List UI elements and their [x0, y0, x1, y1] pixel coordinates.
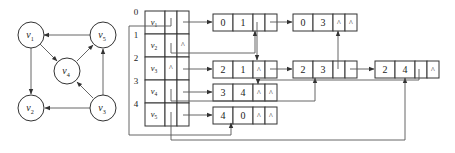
tail-vex: 2: [383, 64, 388, 75]
arc-v4-v5: [77, 45, 93, 61]
row-index: 4: [134, 99, 139, 109]
null-marker: ^: [257, 112, 261, 121]
tail-vex: 4: [221, 110, 226, 121]
vertex-v4: v4: [54, 58, 80, 84]
firstout-cell: [177, 80, 189, 103]
graph-vertices: v1v5v4v2v3: [18, 22, 116, 121]
orthogonal-list-diagram: v1v5v4v2v3 0v11v2^2v3^3v44v5 0103^^21^23…: [0, 0, 455, 153]
null-marker: ^: [349, 19, 353, 28]
firstout-cell: [177, 57, 189, 80]
row-index: 3: [134, 76, 139, 86]
head-vex: 3: [321, 64, 326, 75]
null-marker: ^: [181, 41, 185, 50]
null-marker: ^: [431, 66, 435, 75]
tail-vex: 0: [221, 17, 226, 28]
vertex-v2: v2: [18, 95, 44, 121]
vertex-v3: v3: [90, 95, 116, 121]
head-vex: 3: [321, 17, 326, 28]
arc-node-2-4: 24^: [375, 61, 439, 78]
tlink-cell: [345, 61, 357, 78]
row-index: 0: [134, 7, 139, 17]
arc-node-2-1: 21^: [213, 61, 277, 78]
row-index: 2: [134, 53, 139, 63]
firstout-cell: [177, 11, 189, 34]
arc-node-3-4: 34^^: [213, 84, 277, 101]
hlink-cell: [333, 61, 345, 78]
hlink-cell: [415, 61, 427, 78]
null-marker: ^: [257, 89, 261, 98]
hlink-cell: [253, 14, 265, 31]
head-vex: 1: [241, 64, 246, 75]
tail-vex: 3: [221, 87, 226, 98]
tail-vex: 2: [301, 64, 306, 75]
null-marker: ^: [169, 64, 173, 73]
vertex-table: 0v11v2^2v3^3v44v5: [134, 7, 189, 126]
vertex-table-row: 0v1: [134, 7, 189, 34]
tlink-cell: [265, 61, 277, 78]
head-vex: 1: [241, 17, 246, 28]
firstout-cell: [177, 103, 189, 126]
arc-v1-v4: [40, 44, 57, 61]
vertex-table-row: 2v3^: [134, 53, 189, 80]
arc-node-0-1: 01: [213, 14, 277, 31]
head-vex: 4: [403, 64, 408, 75]
arc-node-4-0: 40^^: [213, 107, 277, 124]
head-vex: 0: [241, 110, 246, 121]
null-marker: ^: [269, 112, 273, 121]
vertex-table-row: 3v4: [134, 76, 189, 103]
null-marker: ^: [257, 66, 261, 75]
vertex-v1: v1: [18, 22, 44, 48]
tail-vex: 0: [301, 17, 306, 28]
vertex-v5: v5: [90, 22, 116, 48]
arc-node-2-3: 23: [293, 61, 357, 78]
head-vex: 4: [241, 87, 246, 98]
null-marker: ^: [337, 19, 341, 28]
null-marker: ^: [269, 89, 273, 98]
tlink-cell: [265, 14, 277, 31]
arc-v3-v4: [77, 82, 93, 98]
directed-graph: v1v5v4v2v3: [18, 22, 116, 121]
arc-node-0-3: 03^^: [293, 14, 357, 31]
firstin-v5: [171, 78, 405, 140]
row-index: 1: [134, 30, 139, 40]
vertex-table-row: 4v5: [134, 99, 189, 126]
tail-vex: 2: [221, 64, 226, 75]
